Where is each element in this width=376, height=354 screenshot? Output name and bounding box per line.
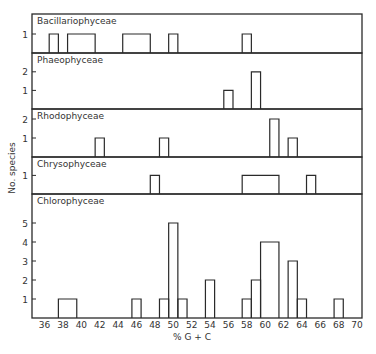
histogram-bar [205, 280, 214, 318]
histogram-bar [159, 138, 168, 157]
histogram-panels: Bacillariophyceae1Phaeophyceae12Rhodophy… [22, 14, 362, 318]
histogram-bar [307, 175, 316, 194]
y-tick-label: 1 [22, 295, 28, 305]
gc-content-histogram: Bacillariophyceae1Phaeophyceae12Rhodophy… [0, 0, 376, 354]
histogram-bar [150, 175, 159, 194]
y-tick-label: 3 [22, 257, 28, 267]
x-tick-label: 52 [186, 320, 197, 330]
x-tick-label: 36 [39, 320, 51, 330]
y-tick-label: 4 [22, 238, 28, 248]
histogram-bar [242, 34, 251, 53]
x-tick-label: 44 [112, 320, 124, 330]
histogram-bar [49, 34, 58, 53]
y-axis-label: No. species [7, 142, 17, 194]
histogram-bar [224, 90, 233, 109]
panel-title: Chlorophyceae [37, 196, 105, 206]
x-axis: 363840424446485052545658606264666870 [39, 320, 363, 330]
x-axis-label: % G + C [173, 332, 211, 342]
histogram-bar [261, 242, 279, 318]
histogram-bar [169, 223, 178, 318]
panel-chrysophyceae: Chrysophyceae1 [22, 157, 362, 194]
histogram-bar [159, 299, 168, 318]
x-tick-label: 70 [351, 320, 363, 330]
histogram-bar [251, 72, 260, 109]
y-tick-label: 1 [22, 134, 28, 144]
x-tick-label: 62 [278, 320, 289, 330]
x-tick-label: 54 [204, 320, 216, 330]
histogram-bar [242, 175, 279, 194]
histogram-bar [288, 261, 297, 318]
x-tick-label: 58 [241, 320, 253, 330]
x-tick-label: 66 [315, 320, 327, 330]
histogram-bar [334, 299, 343, 318]
y-tick-label: 1 [22, 86, 28, 96]
y-tick-label: 1 [22, 171, 28, 181]
x-tick-label: 46 [131, 320, 143, 330]
y-tick-label: 2 [22, 276, 28, 286]
y-tick-label: 2 [22, 115, 28, 125]
histogram-bar [58, 299, 76, 318]
x-tick-label: 38 [57, 320, 69, 330]
x-tick-label: 48 [149, 320, 161, 330]
y-tick-label: 5 [22, 219, 28, 229]
y-tick-label: 2 [22, 67, 28, 77]
histogram-bar [297, 299, 306, 318]
x-tick-label: 56 [223, 320, 235, 330]
histogram-bar [123, 34, 151, 53]
x-tick-label: 64 [296, 320, 308, 330]
x-tick-label: 42 [94, 320, 105, 330]
panel-title: Rhodophyceae [37, 111, 104, 121]
histogram-bar [270, 119, 279, 157]
panel-title: Phaeophyceae [37, 55, 103, 65]
histogram-bar [95, 138, 104, 157]
panel-frame [32, 194, 362, 318]
histogram-bar [288, 138, 297, 157]
x-tick-label: 60 [259, 320, 271, 330]
panel-bacillariophyceae: Bacillariophyceae1 [22, 14, 362, 53]
histogram-bar [169, 34, 178, 53]
histogram-bar [178, 299, 187, 318]
y-tick-label: 1 [22, 30, 28, 40]
histogram-bar [251, 280, 260, 318]
panel-phaeophyceae: Phaeophyceae12 [22, 53, 362, 109]
panel-rhodophyceae: Rhodophyceae12 [22, 109, 362, 157]
x-tick-label: 50 [168, 320, 180, 330]
x-tick-label: 40 [76, 320, 88, 330]
panel-chlorophyceae: Chlorophyceae12345 [22, 194, 362, 318]
x-tick-label: 68 [333, 320, 345, 330]
histogram-bar [68, 34, 96, 53]
panel-title: Chrysophyceae [37, 159, 107, 169]
histogram-bar [242, 299, 251, 318]
histogram-bar [132, 299, 141, 318]
panel-title: Bacillariophyceae [37, 16, 117, 26]
